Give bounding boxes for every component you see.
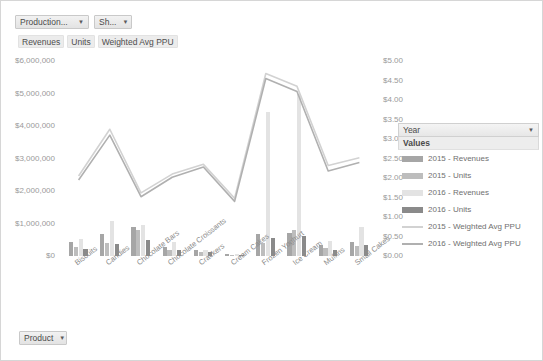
- measure-chips: RevenuesUnitsWeighted Avg PPU: [18, 35, 178, 48]
- left-axis-tick: $2,000,000: [1, 186, 55, 195]
- line-series[interactable]: [79, 73, 360, 198]
- legend-item[interactable]: 2016 - Units: [398, 201, 539, 218]
- product-filter-label: Product: [24, 331, 53, 345]
- legend-item[interactable]: 2016 - Revenues: [398, 184, 539, 201]
- legend-item-label: 2016 - Units: [428, 205, 471, 214]
- left-axis-tick: $4,000,000: [1, 121, 55, 130]
- measure-chip[interactable]: Units: [67, 35, 94, 48]
- legend-line-swatch: [402, 243, 423, 245]
- legend-item[interactable]: 2015 - Units: [398, 167, 539, 184]
- measure-chip[interactable]: Revenues: [18, 35, 64, 48]
- legend-items: 2015 - Revenues2015 - Units2016 - Revenu…: [398, 150, 539, 252]
- product-filter-dropdown[interactable]: Product ▼: [19, 331, 67, 345]
- legend-bar-swatch: [402, 190, 423, 196]
- chevron-down-icon: ▼: [78, 19, 84, 25]
- chevron-down-icon: ▼: [122, 19, 128, 25]
- right-axis-tick: $0.00: [383, 251, 403, 260]
- left-axis-tick: $6,000,000: [1, 56, 55, 65]
- legend-bar-swatch: [402, 156, 423, 162]
- right-axis-tick: $4.50: [383, 76, 403, 85]
- legend: Year ▼ Values 2015 - Revenues2015 - Unit…: [398, 123, 539, 252]
- show-filter-label: Sh...: [99, 15, 116, 29]
- left-axis-tick: $0: [1, 251, 55, 260]
- left-axis-tick: $5,000,000: [1, 89, 55, 98]
- legend-bar-swatch: [402, 207, 423, 213]
- legend-item-label: 2015 - Units: [428, 171, 471, 180]
- show-filter-dropdown[interactable]: Sh... ▼: [94, 15, 132, 29]
- legend-item-label: 2015 - Weighted Avg PPU: [428, 222, 521, 231]
- right-axis-tick: $5.00: [383, 56, 403, 65]
- left-axis-tick: $3,000,000: [1, 154, 55, 163]
- chevron-down-icon: ▼: [59, 335, 65, 341]
- legend-item-label: 2016 - Revenues: [428, 188, 489, 197]
- left-axis-tick: $1,000,000: [1, 219, 55, 228]
- legend-header-label: Year: [403, 125, 420, 135]
- legend-item[interactable]: 2015 - Weighted Avg PPU: [398, 218, 539, 235]
- production-filter-label: Production...: [20, 15, 68, 29]
- legend-line-swatch: [402, 226, 423, 228]
- measure-chip[interactable]: Weighted Avg PPU: [98, 35, 178, 48]
- legend-item-label: 2016 - Weighted Avg PPU: [428, 239, 521, 248]
- chevron-down-icon: ▼: [528, 127, 534, 133]
- legend-item-label: 2015 - Revenues: [428, 154, 489, 163]
- right-axis-tick: $4.00: [383, 95, 403, 104]
- legend-item[interactable]: 2015 - Revenues: [398, 150, 539, 167]
- production-filter-dropdown[interactable]: Production... ▼: [15, 15, 89, 29]
- legend-item[interactable]: 2016 - Weighted Avg PPU: [398, 235, 539, 252]
- legend-year-dropdown[interactable]: Year ▼: [398, 123, 539, 137]
- chart-visual-container: Production... ▼ Sh... ▼ RevenuesUnitsWei…: [0, 0, 543, 361]
- legend-values-label: Values: [398, 137, 539, 150]
- legend-bar-swatch: [402, 173, 423, 179]
